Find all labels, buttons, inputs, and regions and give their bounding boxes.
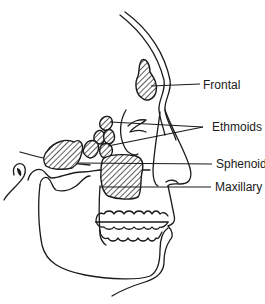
frontal-leader xyxy=(151,84,200,86)
sinus-diagram: Frontal Ethmoids Sphenoid Maxillary xyxy=(0,0,265,304)
ear xyxy=(4,164,25,200)
label-frontal: Frontal xyxy=(203,78,240,92)
maxillary-sinus xyxy=(101,155,143,199)
frontal-sinus xyxy=(136,60,157,100)
sphenoid-sinus xyxy=(44,140,83,169)
ethmoid-leader-upper xyxy=(110,122,203,127)
label-maxillary: Maxillary xyxy=(215,180,262,194)
label-sphenoid: Sphenoid xyxy=(216,157,265,171)
nose xyxy=(153,110,191,186)
label-ethmoids: Ethmoids xyxy=(212,120,262,134)
orbit xyxy=(121,110,146,155)
sphenoid-leader xyxy=(78,163,212,164)
ethmoid-sinuses xyxy=(83,116,114,158)
teeth xyxy=(96,211,168,241)
